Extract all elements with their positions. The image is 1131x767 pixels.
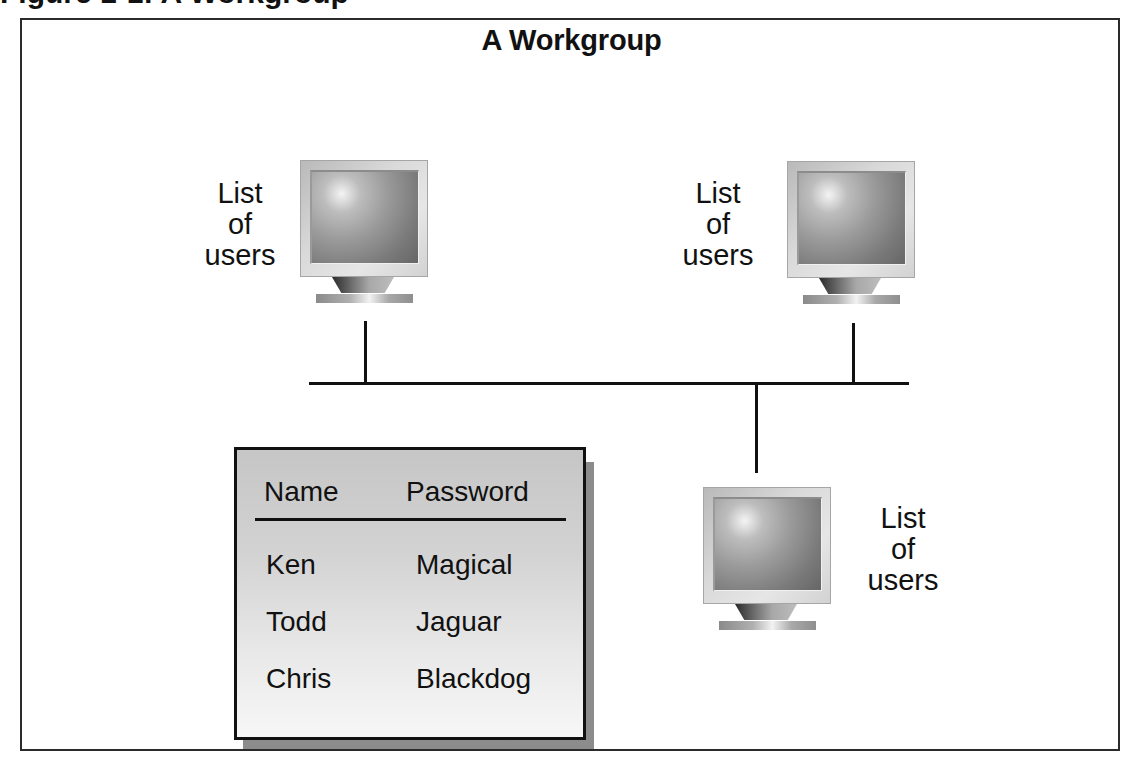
label-line: users — [663, 240, 773, 271]
figure-caption-cropped: Figure 1-1: A Workgroup — [0, 0, 349, 10]
node-label-top-right: List of users — [663, 178, 773, 271]
node-label-bottom: List of users — [848, 503, 958, 596]
label-line: List — [185, 178, 295, 209]
label-line: of — [848, 534, 958, 565]
monitor-stand-neck — [735, 604, 797, 620]
connector-top-left — [364, 321, 367, 383]
table-cell-password: Magical — [416, 549, 512, 581]
computer-monitor-icon — [300, 160, 430, 305]
label-line: of — [663, 209, 773, 240]
table-cell-name: Chris — [266, 663, 331, 695]
connector-bottom — [755, 383, 758, 473]
table-cell-password: Blackdog — [416, 663, 531, 695]
monitor-screen — [713, 497, 822, 591]
monitor-stand-neck — [819, 278, 881, 294]
label-line: List — [663, 178, 773, 209]
table-header-name: Name — [264, 476, 339, 508]
node-label-top-left: List of users — [185, 178, 295, 271]
network-bus-line — [309, 382, 909, 385]
label-line: of — [185, 209, 295, 240]
monitor-stand-base — [719, 621, 816, 630]
diagram-title: A Workgroup — [0, 24, 1131, 57]
monitor-stand-base — [316, 294, 413, 303]
computer-monitor-icon — [787, 161, 917, 306]
table-header-password: Password — [406, 476, 529, 508]
table-cell-name: Ken — [266, 549, 316, 581]
monitor-screen — [310, 170, 419, 264]
label-line: List — [848, 503, 958, 534]
monitor-stand-neck — [332, 277, 394, 293]
monitor-stand-base — [803, 295, 900, 304]
computer-monitor-icon — [703, 487, 833, 632]
monitor-screen — [797, 171, 906, 265]
label-line: users — [848, 565, 958, 596]
table-cell-name: Todd — [266, 606, 327, 638]
label-line: users — [185, 240, 295, 271]
connector-top-right — [852, 323, 855, 383]
table-cell-password: Jaguar — [416, 606, 502, 638]
table-header-underline — [255, 518, 566, 521]
